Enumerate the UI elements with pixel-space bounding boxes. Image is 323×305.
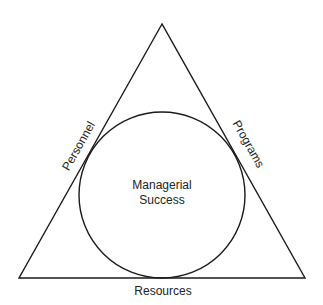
triangle-diagram: Managerial Success Personnel Programs Re… <box>0 0 323 305</box>
center-label-line1: Managerial <box>132 178 191 192</box>
side-label-resources: Resources <box>134 284 191 298</box>
center-label-line2: Success <box>139 193 184 207</box>
side-label-personnel: Personnel <box>59 119 98 173</box>
triangle <box>19 24 305 278</box>
side-label-programs: Programs <box>230 118 268 170</box>
